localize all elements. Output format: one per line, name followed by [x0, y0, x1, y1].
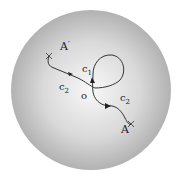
disk-diagram: A′ c1 c2 o c2 A′	[0, 0, 182, 173]
label-o: o	[81, 90, 87, 101]
disk	[11, 10, 171, 170]
